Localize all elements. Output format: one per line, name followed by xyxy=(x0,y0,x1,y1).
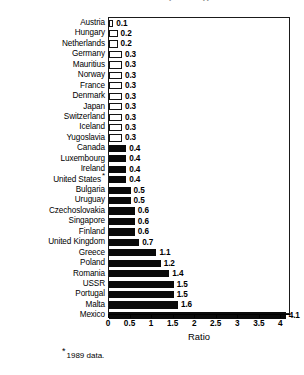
footnote-text: 1989 data. xyxy=(67,351,105,360)
category-label-austria: Austria xyxy=(80,18,108,28)
chart-row: USSR1.5 xyxy=(0,279,304,289)
bar-group: 0.3 xyxy=(109,51,136,58)
bar-value-label: 1.5 xyxy=(174,281,188,289)
chart-row: United States*0.4 xyxy=(0,175,304,185)
chart-row: Yugoslavia0.3 xyxy=(0,133,304,143)
bar xyxy=(109,155,126,162)
bar-group: 0.4 xyxy=(109,166,140,173)
chart-row: Hungary0.2 xyxy=(0,28,304,38)
bar-group: 1.1 xyxy=(109,249,170,256)
bar-group: 0.7 xyxy=(109,239,153,246)
bar xyxy=(109,145,126,152)
chart-row: Mauritius0.3 xyxy=(0,60,304,70)
bar-value-label: 1.6 xyxy=(178,301,192,309)
bar-group: 1.5 xyxy=(109,281,188,288)
chart-row: Greece1.1 xyxy=(0,248,304,258)
chart-row: France0.3 xyxy=(0,81,304,91)
chart-row: Iceland0.3 xyxy=(0,122,304,132)
bar-value-label: 0.4 xyxy=(126,166,140,174)
bar xyxy=(109,124,122,131)
bar-group: 0.3 xyxy=(109,114,136,121)
category-label-mexico: Mexico xyxy=(80,310,108,320)
bar-value-label: 0.3 xyxy=(122,51,136,59)
x-axis-tick-label: 0.5 xyxy=(124,318,135,329)
category-label-germany: Germany xyxy=(72,49,108,59)
chart-row: Singapore0.6 xyxy=(0,216,304,226)
bar-group: 0.2 xyxy=(109,30,132,37)
footnote: *1989 data. xyxy=(62,350,104,361)
bar-value-label: 0.1 xyxy=(113,20,127,28)
category-label-luxembourg: Luxembourg xyxy=(60,154,108,164)
bar-group: 0.3 xyxy=(109,72,136,79)
chart-row: Austria0.1 xyxy=(0,18,304,28)
x-axis-tick-label: 1 xyxy=(149,318,154,329)
category-label-norway: Norway xyxy=(78,70,108,80)
bar-group: 0.6 xyxy=(109,228,149,235)
chart-row: Netherlands0.2 xyxy=(0,39,304,49)
chart-row: Canada0.4 xyxy=(0,143,304,153)
bar xyxy=(109,228,135,235)
chart-row: United Kingdom0.7 xyxy=(0,237,304,247)
category-label-iceland: Iceland xyxy=(79,122,108,132)
footnote-asterisk: * xyxy=(62,346,66,356)
bar xyxy=(109,61,122,68)
bar-group: 0.5 xyxy=(109,197,145,204)
bar-group: 0.3 xyxy=(109,61,136,68)
chart-row: Portugal1.5 xyxy=(0,289,304,299)
bar-group: 0.4 xyxy=(109,145,140,152)
category-label-portugal: Portugal xyxy=(75,289,108,299)
category-label-greece: Greece xyxy=(79,248,108,258)
x-axis xyxy=(108,314,290,315)
bar xyxy=(109,40,118,47)
x-axis-tick-label: 0 xyxy=(106,318,111,329)
bar-value-label: 0.5 xyxy=(131,197,145,205)
bar-group: 0.5 xyxy=(109,187,145,194)
bar xyxy=(109,270,169,277)
chart-row: Uruguay0.5 xyxy=(0,195,304,205)
category-label-romania: Romania xyxy=(73,269,108,279)
chart-row: Malta1.6 xyxy=(0,300,304,310)
bar xyxy=(109,239,139,246)
bar-value-label: 0.5 xyxy=(131,187,145,195)
bar xyxy=(109,281,174,288)
bar xyxy=(109,176,126,183)
chart-row: Finland0.6 xyxy=(0,227,304,237)
chart-row: Switzerland0.3 xyxy=(0,112,304,122)
bar-group: 0.2 xyxy=(109,40,132,47)
chart-row: Germany0.3 xyxy=(0,49,304,59)
bar-value-label: 0.7 xyxy=(139,239,153,247)
category-label-uruguay: Uruguay xyxy=(75,195,108,205)
bar-group: 0.6 xyxy=(109,207,149,214)
x-axis-tick-label: 4 xyxy=(278,318,283,329)
bar-group: 1.6 xyxy=(109,301,192,308)
category-label-france: France xyxy=(80,81,108,91)
bar-group: 0.3 xyxy=(109,134,136,141)
bar xyxy=(109,93,122,100)
bar xyxy=(109,197,131,204)
bar-value-label: 0.6 xyxy=(135,228,149,236)
footnote-marker-icon: * xyxy=(102,171,105,180)
category-label-switzerland: Switzerland xyxy=(64,112,108,122)
bar-value-label: 0.2 xyxy=(118,30,132,38)
chart-row: Ireland0.4 xyxy=(0,164,304,174)
chart-title: Number of Doctors by Size Typical xyxy=(0,0,304,1)
category-label-hungary: Hungary xyxy=(75,28,108,38)
bar-group: 0.3 xyxy=(109,82,136,89)
bar xyxy=(109,260,161,267)
bar xyxy=(109,218,135,225)
bar-value-label: 0.3 xyxy=(122,134,136,142)
category-label-bulgaria: Bulgaria xyxy=(76,185,108,195)
chart-row: Luxembourg0.4 xyxy=(0,154,304,164)
bar xyxy=(109,134,122,141)
category-label-canada: Canada xyxy=(77,143,108,153)
category-label-singapore: Singapore xyxy=(69,216,108,226)
bar-group: 0.4 xyxy=(109,176,140,183)
bar-value-label: 0.6 xyxy=(135,218,149,226)
bar-group: 0.3 xyxy=(109,93,136,100)
bar-value-label: 0.4 xyxy=(126,176,140,184)
bar-value-label: 0.3 xyxy=(122,82,136,90)
category-label-czechoslovakia: Czechoslovakia xyxy=(49,206,108,216)
bar-value-label: 1.5 xyxy=(174,291,188,299)
bar-group: 1.2 xyxy=(109,260,175,267)
bar-group: 0.3 xyxy=(109,124,136,131)
